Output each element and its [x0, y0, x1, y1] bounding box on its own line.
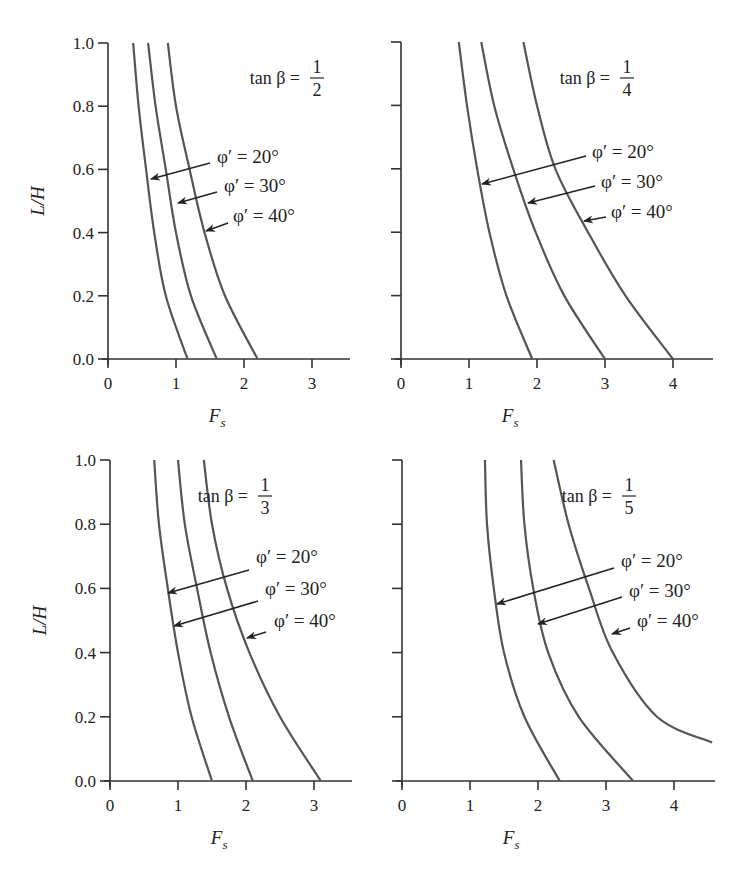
- fraction-denominator: 5: [625, 498, 634, 518]
- y-tick-label: 0.4: [73, 224, 95, 243]
- curve-phi30: [521, 460, 633, 781]
- arrow-icon: [497, 568, 614, 604]
- x-tick-label: 2: [240, 374, 249, 393]
- label-phi40: φ′ = 40°: [274, 610, 336, 631]
- y-tick-label: 1.0: [73, 34, 94, 53]
- arrow-icon: [168, 570, 249, 593]
- label-phi30: φ′ = 30°: [224, 175, 286, 196]
- y-tick-label: 0.6: [75, 579, 96, 598]
- label-phi20: φ′ = 20°: [256, 546, 318, 567]
- x-axis-title: Fs: [502, 827, 520, 852]
- x-tick-label: 3: [310, 796, 319, 815]
- y-tick-label: 0.6: [73, 160, 94, 179]
- x-tick-label: 0: [104, 374, 113, 393]
- x-tick-label: 1: [466, 796, 475, 815]
- y-axis-title: L/H: [29, 604, 50, 636]
- fraction-denominator: 4: [623, 80, 632, 100]
- x-tick-label: 1: [172, 374, 181, 393]
- fraction-denominator: 2: [313, 80, 322, 100]
- curve-phi30: [481, 42, 605, 359]
- label-phi40: φ′ = 40°: [637, 610, 699, 631]
- fraction-numerator: 1: [623, 57, 632, 77]
- fraction-numerator: 1: [625, 475, 634, 495]
- x-axis-title: Fs: [501, 405, 519, 430]
- tan-beta-label: tan β =: [560, 68, 610, 88]
- arrow-icon: [538, 597, 622, 624]
- x-axis-title: Fs: [210, 827, 228, 852]
- x-tick-label: 3: [308, 374, 317, 393]
- y-tick-label: 1.0: [75, 451, 96, 470]
- y-tick-label: 0.2: [73, 287, 94, 306]
- chart-panel-2: 01234Fsφ′ = 20°φ′ = 30°φ′ = 40°tan β =14: [391, 42, 713, 430]
- chart-panel-4: 01234Fsφ′ = 20°φ′ = 30°φ′ = 40°tan β =15: [392, 460, 715, 852]
- arrow-icon: [612, 628, 630, 634]
- arrow-icon: [584, 217, 606, 221]
- y-tick-label: 0.4: [75, 644, 97, 663]
- label-phi20: φ′ = 20°: [217, 146, 279, 167]
- x-tick-label: 0: [106, 796, 115, 815]
- x-tick-label: 1: [465, 374, 474, 393]
- x-tick-label: 3: [601, 374, 610, 393]
- chart-panel-1: 0.00.20.40.60.81.00123FsL/Hφ′ = 20°φ′ = …: [27, 34, 350, 430]
- y-tick-label: 0.0: [73, 350, 94, 369]
- x-axis-title: Fs: [208, 405, 226, 430]
- arrow-icon: [151, 163, 210, 179]
- tan-beta-label: tan β =: [562, 486, 612, 506]
- x-tick-label: 3: [602, 796, 611, 815]
- y-axis-title: L/H: [27, 185, 48, 217]
- x-tick-label: 2: [533, 374, 542, 393]
- label-phi30: φ′ = 30°: [265, 578, 327, 599]
- label-phi40: φ′ = 40°: [611, 201, 673, 222]
- label-phi20: φ′ = 20°: [621, 550, 683, 571]
- x-tick-label: 2: [534, 796, 543, 815]
- tan-beta-label: tan β =: [250, 68, 300, 88]
- y-tick-label: 0.8: [75, 515, 96, 534]
- fraction-numerator: 1: [313, 57, 322, 77]
- arrow-icon: [528, 186, 595, 203]
- fraction-denominator: 3: [261, 498, 270, 518]
- curve-phi40: [168, 43, 258, 359]
- fraction-numerator: 1: [261, 475, 270, 495]
- curve-phi20: [459, 42, 532, 359]
- label-phi20: φ′ = 20°: [592, 141, 654, 162]
- y-tick-label: 0.8: [73, 97, 94, 116]
- y-tick-label: 0.2: [75, 708, 96, 727]
- x-tick-label: 4: [670, 796, 679, 815]
- curve-phi20: [133, 43, 187, 359]
- label-phi30: φ′ = 30°: [601, 171, 663, 192]
- arrow-icon: [247, 632, 266, 638]
- figure: 0.00.20.40.60.81.00123FsL/Hφ′ = 20°φ′ = …: [0, 0, 743, 877]
- chart-panel-3: 0.00.20.40.60.81.00123FsL/Hφ′ = 20°φ′ = …: [29, 451, 352, 852]
- x-tick-label: 4: [669, 374, 678, 393]
- tan-beta-label: tan β =: [198, 486, 248, 506]
- x-tick-label: 0: [397, 374, 406, 393]
- x-tick-label: 0: [398, 796, 407, 815]
- curve-phi30: [178, 460, 253, 781]
- label-phi30: φ′ = 30°: [629, 580, 691, 601]
- y-tick-label: 0.0: [75, 772, 96, 791]
- x-tick-label: 2: [242, 796, 251, 815]
- arrow-icon: [482, 156, 586, 184]
- label-phi40: φ′ = 40°: [233, 205, 295, 226]
- x-tick-label: 1: [174, 796, 183, 815]
- arrow-icon: [174, 601, 258, 626]
- arrow-icon: [206, 223, 228, 231]
